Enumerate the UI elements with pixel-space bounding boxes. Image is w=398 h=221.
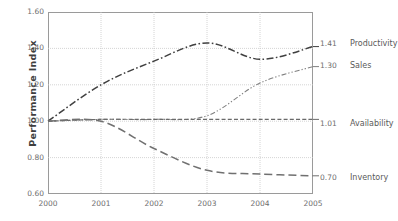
series-label-availability: 1.01Availability: [320, 119, 394, 128]
series-name: Inventory: [350, 173, 388, 182]
series-label-productivity: 1.41Productivity: [320, 39, 397, 48]
series-end-value: 1.41: [320, 39, 342, 48]
series-name: Availability: [350, 119, 394, 128]
series-name: Productivity: [350, 39, 397, 48]
performance-index-line-chart: Performance Index 1.601.401.201.000.800.…: [0, 0, 398, 221]
series-label-inventory: 0.70Inventory: [320, 173, 388, 182]
series-name: Sales: [350, 61, 371, 70]
series-end-value: 1.01: [320, 119, 342, 128]
series-label-sales: 1.30Sales: [320, 61, 371, 70]
series-endpoint-labels: 1.41Productivity1.30Sales1.01Availabilit…: [0, 0, 398, 221]
series-end-value: 0.70: [320, 173, 342, 182]
series-end-value: 1.30: [320, 61, 342, 70]
